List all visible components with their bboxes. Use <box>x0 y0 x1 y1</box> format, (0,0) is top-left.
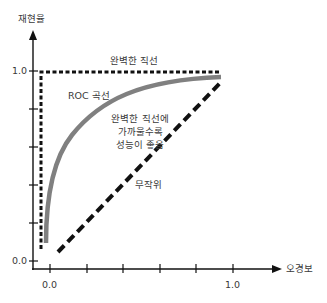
x-tick-label-right: 1.0 <box>225 280 240 290</box>
performance-note: 완벽한 직선에 가까울수록 성능이 좋음 <box>100 112 180 151</box>
y-axis-arrow-icon <box>29 30 37 40</box>
performance-note-line3: 성능이 좋음 <box>100 138 180 151</box>
roc-curve-label: ROC 곡선 <box>68 91 110 101</box>
x-tick-label-left: 0.0 <box>42 280 57 290</box>
x-axis-label: 오경보 <box>286 264 313 274</box>
performance-note-line1: 완벽한 직선에 <box>100 112 180 125</box>
random-label: 무작위 <box>135 180 162 190</box>
y-tick-label-bottom: 0.0 <box>12 256 27 266</box>
y-axis-label: 재현율 <box>18 14 45 24</box>
roc-curve <box>46 77 221 243</box>
perfect-line-label: 완벽한 직선 <box>110 56 158 66</box>
y-tick-label-top: 1.0 <box>12 66 27 76</box>
x-axis-arrow-icon <box>272 265 282 273</box>
roc-chart <box>0 0 327 303</box>
performance-note-line2: 가까울수록 <box>100 125 180 138</box>
random-line <box>58 83 220 252</box>
